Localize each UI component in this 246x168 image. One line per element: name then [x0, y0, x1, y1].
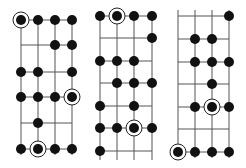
- note-dot: [224, 147, 234, 157]
- note-dot: [95, 101, 105, 111]
- note-dot: [207, 34, 217, 44]
- scale-pattern-2: [95, 8, 157, 160]
- note-dot: [67, 144, 77, 154]
- note-dot: [33, 67, 43, 77]
- note-dot: [16, 92, 26, 102]
- note-dot: [33, 118, 43, 128]
- note-dot: [112, 56, 122, 66]
- note-dot: [16, 67, 26, 77]
- note-dot: [224, 11, 234, 21]
- note-dot: [95, 146, 105, 156]
- scale-diagrams-canvas: [0, 0, 246, 168]
- note-dot: [147, 78, 157, 88]
- root-note-dot: [173, 147, 183, 157]
- note-dot: [67, 40, 77, 50]
- note-dot: [95, 11, 105, 21]
- note-dot: [50, 40, 60, 50]
- note-dot: [67, 15, 77, 25]
- root-note-dot: [33, 144, 43, 154]
- root-note-dot: [67, 92, 77, 102]
- note-dot: [190, 57, 200, 67]
- root-note-dot: [112, 11, 122, 21]
- note-dot: [129, 101, 139, 111]
- note-dot: [129, 56, 139, 66]
- note-dot: [129, 78, 139, 88]
- note-dot: [33, 92, 43, 102]
- note-dot: [95, 56, 105, 66]
- note-dot: [190, 147, 200, 157]
- note-dot: [67, 67, 77, 77]
- note-dot: [112, 78, 122, 88]
- root-note-dot: [129, 123, 139, 133]
- note-dot: [207, 57, 217, 67]
- note-dot: [224, 57, 234, 67]
- scale-pattern-1: [13, 12, 80, 157]
- note-dot: [95, 123, 105, 133]
- note-dot: [147, 11, 157, 21]
- root-note-dot: [16, 15, 26, 25]
- note-dot: [112, 123, 122, 133]
- note-dot: [190, 34, 200, 44]
- root-note-dot: [207, 102, 217, 112]
- note-dot: [16, 144, 26, 154]
- note-dot: [50, 144, 60, 154]
- note-dot: [207, 79, 217, 89]
- note-dot: [50, 15, 60, 25]
- note-dot: [147, 33, 157, 43]
- note-dot: [207, 147, 217, 157]
- note-dot: [33, 15, 43, 25]
- note-dot: [147, 123, 157, 133]
- note-dot: [190, 102, 200, 112]
- note-dot: [129, 11, 139, 21]
- scale-pattern-3: [170, 10, 234, 160]
- note-dot: [224, 102, 234, 112]
- note-dot: [50, 92, 60, 102]
